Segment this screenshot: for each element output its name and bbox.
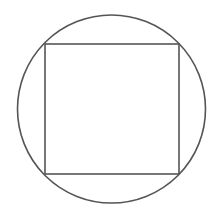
inscribed-square xyxy=(45,44,179,174)
inscribed-square-diagram xyxy=(0,0,219,214)
